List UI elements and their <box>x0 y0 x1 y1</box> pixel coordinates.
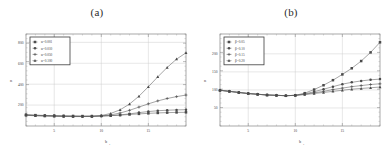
panel-b-xaxis-label-sub: 1 <box>303 143 305 146</box>
panel-b-datapoint <box>332 79 335 82</box>
panel-b-datapoint <box>351 81 354 84</box>
panel-a-ytick-label: 600 <box>18 62 24 66</box>
panel-a-ytick-label: 800 <box>18 41 24 45</box>
panel-b-plot: 5101550100150200b1nβ=0.05β=0.10β=0.15β=0… <box>194 26 388 154</box>
panel-a-datapoint <box>185 111 188 114</box>
panel-a: (a) 51015200400600800b1nα=0.001α=0.010α=… <box>0 0 194 154</box>
panel-a-xaxis-label: b <box>105 139 107 144</box>
panel-a-plot: 51015200400600800b1nα=0.001α=0.010α=0.05… <box>0 26 194 154</box>
panel-a-legend-label: α=0.050 <box>41 53 53 57</box>
panel-a-ytick-label: 400 <box>18 83 24 87</box>
panel-a-datapoint <box>175 111 178 114</box>
panel-a-legend-label: α=0.100 <box>41 59 53 63</box>
panel-a-datapoint <box>166 109 169 112</box>
panel-a-legend-label: α=0.001 <box>41 40 53 44</box>
panel-a-title: (a) <box>0 6 194 18</box>
panel-b-xaxis-label: b <box>299 139 301 144</box>
panel-b-xtick-label: 5 <box>247 129 249 133</box>
panel-b-datapoint <box>341 73 344 76</box>
panel-a-datapoint <box>147 110 150 113</box>
figure-two-panel: (a) 51015200400600800b1nα=0.001α=0.010α=… <box>0 0 388 154</box>
panel-a-xtick-label: 10 <box>99 129 103 133</box>
panel-a-xaxis-label-sub: 1 <box>109 143 111 146</box>
panel-a-datapoint <box>157 109 160 112</box>
panel-b-datapoint <box>332 85 335 88</box>
panel-b-yaxis-label: n <box>204 78 207 83</box>
panel-a-yaxis-label: n <box>10 78 13 83</box>
panel-b: (b) 5101550100150200b1nβ=0.05β=0.10β=0.1… <box>194 0 388 154</box>
panel-b-legend-label: β=0.10 <box>235 47 245 51</box>
panel-a-datapoint <box>128 113 131 116</box>
panel-a-ytick-label: 200 <box>18 103 24 107</box>
panel-a-datapoint <box>185 108 188 111</box>
panel-b-datapoint <box>360 60 363 63</box>
panel-b-legend-label: β=0.05 <box>235 40 245 44</box>
panel-b-ytick-label: 50 <box>214 106 218 110</box>
panel-b-datapoint <box>341 83 344 86</box>
panel-b-svg: 5101550100150200b1nβ=0.05β=0.10β=0.15β=0… <box>194 26 388 154</box>
panel-a-datapoint <box>175 109 178 112</box>
panel-b-xtick-label: 10 <box>293 129 297 133</box>
panel-b-datapoint <box>313 88 316 91</box>
panel-b-title: (b) <box>194 6 388 18</box>
panel-b-datapoint <box>379 78 382 81</box>
panel-b-ytick-label: 100 <box>212 88 218 92</box>
panel-a-xtick-label: 15 <box>147 129 151 133</box>
panel-a-datapoint <box>157 112 160 115</box>
panel-a-legend-label: α=0.010 <box>41 47 53 51</box>
panel-b-xtick-label: 15 <box>341 129 345 133</box>
panel-b-datapoint <box>351 67 354 70</box>
panel-b-legend-label: β=0.20 <box>235 59 245 63</box>
panel-a-datapoint <box>166 111 169 114</box>
panel-b-datapoint <box>369 51 372 54</box>
panel-b-ytick-label: 200 <box>212 52 218 56</box>
panel-b-legend-label: β=0.15 <box>235 53 245 57</box>
panel-b-ytick-label: 150 <box>212 70 218 74</box>
panel-a-xtick-label: 5 <box>53 129 55 133</box>
panel-b-datapoint <box>369 79 372 82</box>
panel-b-datapoint <box>322 84 325 87</box>
panel-a-datapoint <box>138 111 141 114</box>
panel-a-svg: 51015200400600800b1nα=0.001α=0.010α=0.05… <box>0 26 194 154</box>
panel-b-datapoint <box>379 41 382 44</box>
panel-b-datapoint <box>360 80 363 83</box>
